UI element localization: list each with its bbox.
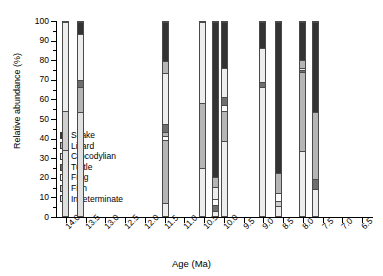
bar-segment-crocodylian <box>260 48 265 82</box>
bar-segment-crocodylian <box>300 68 305 70</box>
y-axis-tick <box>51 217 56 218</box>
bar-segment-crocodylian <box>200 22 205 103</box>
y-axis-tick-label: 90 <box>3 36 49 45</box>
bar-segment-turtle <box>260 82 265 87</box>
bar-segment-turtle <box>163 124 168 132</box>
bar-segment-turtle <box>300 70 305 73</box>
legend-item: Frog <box>60 172 123 183</box>
y-axis-line <box>56 21 57 217</box>
chart-figure: 0102030405060708090100 Relative abundanc… <box>0 0 383 276</box>
stacked-bar <box>162 21 169 217</box>
bar-segment-snake <box>163 22 168 61</box>
stacked-bar <box>299 21 306 217</box>
y-axis-tick-label: 50 <box>3 115 49 124</box>
x-axis-title: Age (Ma) <box>0 258 383 269</box>
bar-segment-lizard <box>163 61 168 74</box>
bar-segment-crocodylian <box>163 73 168 123</box>
y-axis-tick <box>51 119 56 120</box>
bar-segment-crocodylian <box>313 189 318 216</box>
bar-segment-lizard <box>222 111 227 141</box>
chart-legend: SnakeLizardCrocodylianTurtleFrogFishInde… <box>60 130 123 204</box>
y-axis-minor-tick <box>53 168 56 169</box>
stacked-bar <box>77 21 84 217</box>
bar-segment-crocodylian <box>163 203 168 216</box>
y-axis-labels: 0102030405060708090100 <box>0 0 49 276</box>
bar-segment-lizard <box>276 173 281 192</box>
bar-segment-lizard <box>163 140 168 203</box>
y-axis-minor-tick <box>53 207 56 208</box>
y-axis-minor-tick <box>53 70 56 71</box>
bar-segment-lizard <box>163 132 168 137</box>
bar-segment-snake <box>213 22 218 177</box>
bar-segment-lizard <box>313 112 318 179</box>
bar-segment-crocodylian <box>300 151 305 216</box>
y-axis-tick <box>51 158 56 159</box>
y-axis-minor-tick <box>53 90 56 91</box>
bar-segment-crocodylian <box>213 211 218 216</box>
y-axis-tick <box>51 41 56 42</box>
y-axis-minor-tick <box>53 188 56 189</box>
y-axis-tick <box>51 178 56 179</box>
stacked-bar <box>259 21 266 217</box>
legend-item: Fish <box>60 183 123 194</box>
y-axis-tick-label: 40 <box>3 134 49 143</box>
stacked-bar <box>221 21 228 217</box>
stacked-bar <box>312 21 319 217</box>
bar-segment-snake <box>260 22 265 48</box>
bar-segment-frog <box>213 199 218 206</box>
bar-segment-turtle <box>213 205 218 211</box>
y-axis-tick-label: 60 <box>3 95 49 104</box>
bar-segment-lizard <box>300 72 305 151</box>
bar-segment-indeterminate <box>63 150 68 216</box>
y-axis-tick <box>51 139 56 140</box>
bar-segment-crocodylian <box>260 87 265 216</box>
bar-segment-crocodylian <box>222 68 227 97</box>
y-axis-tick <box>51 99 56 100</box>
stacked-bar <box>199 21 206 217</box>
bar-segment-crocodylian <box>200 168 205 217</box>
bar-segment-snake <box>313 22 318 112</box>
y-axis-tick-label: 70 <box>3 75 49 84</box>
bar-segment-crocodylian <box>213 187 218 199</box>
y-axis-tick <box>51 197 56 198</box>
y-axis-minor-tick <box>53 31 56 32</box>
bar-segment-crocodylian <box>276 206 281 216</box>
y-axis-minor-tick <box>53 109 56 110</box>
bar-segment-crocodylian <box>63 22 68 111</box>
y-axis-tick <box>51 21 56 22</box>
legend-item: Snake <box>60 130 123 141</box>
y-axis-tick-label: 80 <box>3 56 49 65</box>
bar-segment-fish <box>276 201 281 207</box>
bar-segment-snake <box>276 22 281 173</box>
y-axis-tick <box>51 60 56 61</box>
stacked-bar <box>62 21 69 217</box>
bar-segment-snake <box>300 22 305 60</box>
bar-segment-lizard <box>300 60 305 68</box>
bar-segment-frog <box>222 105 227 111</box>
bar-segment-crocodylian <box>222 141 227 216</box>
legend-item: Turtle <box>60 162 123 173</box>
y-axis-minor-tick <box>53 129 56 130</box>
bar-segment-turtle <box>222 97 227 106</box>
bar-segment-snake <box>222 22 227 68</box>
y-axis-tick-label: 20 <box>3 173 49 182</box>
stacked-bar <box>212 21 219 217</box>
bar-segment-lizard <box>200 103 205 167</box>
legend-item: Indeterminate <box>60 194 123 205</box>
y-axis-tick <box>51 80 56 81</box>
bar-segment-turtle <box>78 80 83 87</box>
bar-segment-frog <box>276 193 281 201</box>
y-axis-tick-label: 10 <box>3 193 49 202</box>
bar-segment-turtle <box>313 179 318 189</box>
y-axis-tick-label: 100 <box>3 17 49 26</box>
bar-segment-fish <box>63 111 68 150</box>
y-axis-title: Relative abundance (%) <box>12 26 22 176</box>
bar-segment-lizard <box>78 87 83 112</box>
y-axis-tick-label: 0 <box>3 213 49 222</box>
y-axis-tick-label: 30 <box>3 154 49 163</box>
stacked-bar <box>275 21 282 217</box>
y-axis-minor-tick <box>53 148 56 149</box>
bar-segment-lizard <box>213 177 218 187</box>
bar-segment-crocodylian <box>78 34 83 81</box>
bar-segment-indeterminate <box>78 112 83 216</box>
